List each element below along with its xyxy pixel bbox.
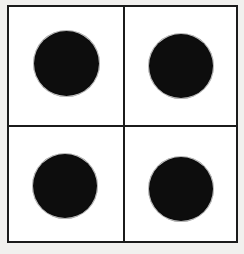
- dot-bottom-right: [149, 157, 213, 221]
- grid-cell-bottom-left: [9, 125, 123, 241]
- dot-top-right: [149, 34, 213, 98]
- dot-top-left: [34, 31, 99, 96]
- grid-cell-bottom-right: [125, 125, 236, 241]
- grid-cell-top-left: [9, 7, 123, 123]
- grid-cell-top-right: [125, 7, 236, 123]
- dot-bottom-left: [33, 154, 97, 218]
- figure-canvas: [0, 0, 244, 254]
- grid-frame: [7, 5, 238, 243]
